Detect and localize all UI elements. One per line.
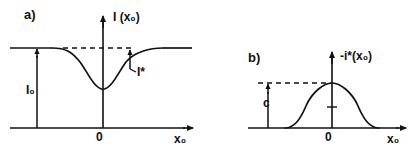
panel-a-I0-label: I₀ xyxy=(26,84,35,96)
panel-a-origin-tick-label: 0 xyxy=(96,131,103,143)
panel-b-tag: b) xyxy=(248,51,260,64)
panel-a-x-axis-label: x₀ xyxy=(174,133,186,145)
panel-b-c-label: c xyxy=(263,97,270,109)
panel-b-curve-group xyxy=(258,83,379,128)
panel-b-axes xyxy=(248,52,406,128)
panel-b-x-axis-label: x₀ xyxy=(387,133,399,145)
figure-canvas: a) I (x₀) 0 x₀ I₀ I* b) -i*(x₀) 0 x₀ c xyxy=(0,0,420,151)
panel-b-y-axis-label: -i*(x₀) xyxy=(340,50,372,62)
panel-a-y-axis-label: I (x₀) xyxy=(113,11,140,23)
panel-b-origin-tick-label: 0 xyxy=(325,131,332,143)
figure-svg xyxy=(0,0,420,151)
panel-a-Istar-marker xyxy=(130,50,136,72)
panel-a-dip-curve xyxy=(52,48,163,90)
panel-a-tag: a) xyxy=(24,8,36,21)
panel-a-Istar-leader xyxy=(130,69,136,72)
panel-a-Istar-label: I* xyxy=(137,66,145,78)
